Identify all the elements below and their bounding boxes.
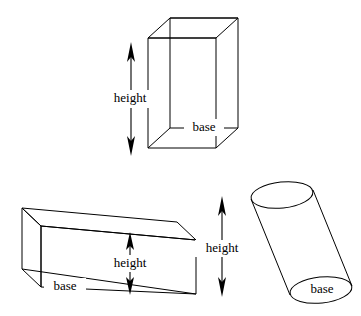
cylinder-base-label: base <box>310 281 333 296</box>
wedge-left-end-face <box>22 208 41 287</box>
rectangular-prism-group: height base <box>104 18 238 156</box>
prism-base-label: base <box>192 119 215 134</box>
prism-height-dimension: height <box>104 42 158 156</box>
cylinder-left-side-edge <box>251 199 290 295</box>
geometry-figure: height base <box>0 0 361 316</box>
prism-front-face <box>170 18 238 128</box>
figure-canvas: height base <box>0 0 361 316</box>
wedge-top-face <box>22 208 196 240</box>
wedge-prism-group: height base <box>22 208 196 295</box>
wedge-base-dimension: base <box>44 278 86 295</box>
wedge-height-dimension: height <box>103 232 157 295</box>
cylinder-height-dimension: height <box>195 196 249 297</box>
cylinder-right-side-edge <box>313 190 352 286</box>
cylinder-height-label: height <box>206 240 239 255</box>
wedge-base-label: base <box>53 278 76 293</box>
wedge-height-label: height <box>114 255 147 270</box>
prism-top-face <box>148 18 238 38</box>
prism-height-label: height <box>114 90 147 105</box>
cylinder-top-ellipse <box>250 179 314 211</box>
prism-base-dimension: base <box>184 119 224 136</box>
oblique-cylinder-group: height base <box>195 179 353 306</box>
